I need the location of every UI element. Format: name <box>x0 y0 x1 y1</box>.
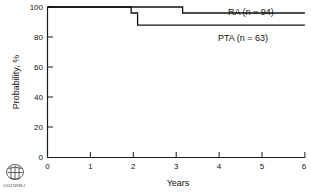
y-axis-title: Probability, % <box>11 55 21 109</box>
x-tick-label-6: 6 <box>302 162 307 171</box>
y-tick-label-20: 20 <box>34 123 43 132</box>
y-tick-label-80: 80 <box>34 33 43 42</box>
kaplan-meier-figure: 100 80 60 40 20 0 Probability, % 0 1 2 3… <box>0 0 311 192</box>
x-tick-label-4: 4 <box>217 162 222 171</box>
series-label-ra: RA (n = 94) <box>228 7 274 17</box>
x-tick-label-5: 5 <box>260 162 265 171</box>
x-tick-label-1: 1 <box>88 162 93 171</box>
x-tick-label-2: 2 <box>131 162 136 171</box>
institutional-seal-icon <box>7 165 24 180</box>
x-axis-title: Years <box>167 178 190 188</box>
y-tick-label-100: 100 <box>30 3 44 12</box>
x-tick-label-3: 3 <box>174 162 179 171</box>
y-tick-label-40: 40 <box>34 93 43 102</box>
y-tick-label-60: 60 <box>34 63 43 72</box>
credit-code: CG1274938-2 <box>3 184 25 188</box>
chart-canvas: 100 80 60 40 20 0 Probability, % 0 1 2 3… <box>0 0 311 192</box>
x-tick-label-0: 0 <box>45 162 50 171</box>
series-label-pta: PTA (n = 63) <box>218 33 268 43</box>
y-tick-label-0: 0 <box>39 153 44 162</box>
